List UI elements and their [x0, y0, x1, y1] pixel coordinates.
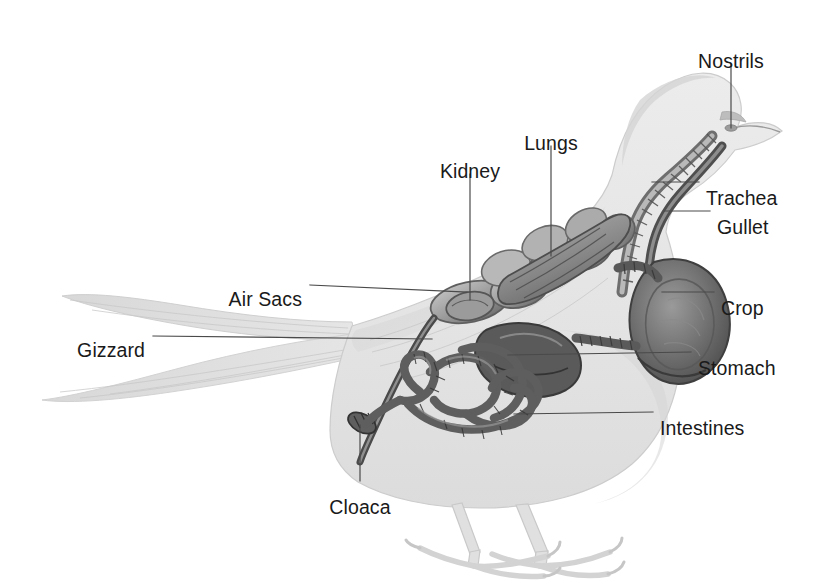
label-lungs: Lungs	[524, 134, 578, 154]
toe-far-back	[420, 548, 474, 566]
diagram-canvas: NostrilsLungsKidneyTracheaGulletAir Sacs…	[0, 0, 818, 588]
feet-group	[420, 548, 610, 577]
leg-near	[516, 504, 548, 554]
leg-far	[452, 503, 480, 554]
leader-line-air-sacs	[310, 285, 467, 292]
label-intestines: Intestines	[660, 419, 744, 439]
label-crop: Crop	[721, 299, 764, 319]
label-trachea: Trachea	[706, 189, 778, 209]
label-gizzard: Gizzard	[77, 341, 145, 361]
bird-anatomy-illustration	[0, 0, 818, 588]
label-kidney: Kidney	[440, 162, 500, 182]
label-stomach: Stomach	[698, 359, 776, 379]
label-gullet: Gullet	[717, 218, 769, 238]
label-cloaca: Cloaca	[329, 498, 390, 518]
label-air-sacs: Air Sacs	[229, 290, 302, 310]
label-nostrils: Nostrils	[698, 52, 764, 72]
